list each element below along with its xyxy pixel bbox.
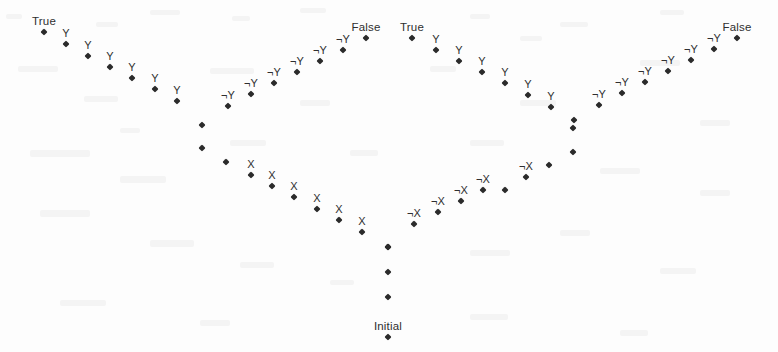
node-label: ¬Y [290,56,304,67]
node-label: Y [455,45,463,56]
graph-node [224,102,231,109]
graph-node [547,103,554,110]
graph-node [478,68,485,75]
graph-node [198,121,205,128]
graph-node [710,45,717,52]
graph-node [522,173,529,180]
graph-node [664,67,671,74]
node-label: Y [84,40,92,51]
node-label: ¬Y [267,67,281,78]
graph-node [62,40,69,47]
node-label: Y [128,62,136,73]
graph-node [434,208,441,215]
graph-node [222,158,229,165]
node-label: X [313,193,321,204]
diagram-canvas: TrueYYYYYYXXXXXXFalse¬Y¬Y¬Y¬Y¬Y¬YTrueYYY… [0,0,778,352]
node-label: X [335,204,343,215]
node-label: X [290,181,298,192]
graph-node [293,68,300,75]
node-label: Y [106,51,114,62]
node-label: ¬X [454,185,468,196]
node-label: X [247,159,255,170]
graph-node [335,216,342,223]
node-label: X [358,216,366,227]
graph-node [687,56,694,63]
graph-node [316,57,323,64]
node-label: False [351,22,380,33]
graph-node [595,101,602,108]
node-label: ¬X [407,208,421,219]
graph-node [198,144,205,151]
node-label: Y [547,91,555,102]
graph-node [128,74,135,81]
node-label: ¬Y [707,33,721,44]
graph-node [339,46,346,53]
graph-node [384,268,391,275]
graph-node [501,186,508,193]
graph-node [524,91,531,98]
graph-node [384,333,391,340]
node-label: ¬Y [244,78,258,89]
graph-node [358,228,365,235]
node-label: True [32,16,56,27]
graph-node [270,79,277,86]
graph-node [501,79,508,86]
node-label: Y [151,73,159,84]
node-label: ¬X [476,174,490,185]
graph-node [432,46,439,53]
graph-node [410,220,417,227]
graph-node [570,116,577,123]
node-label: ¬Y [684,44,698,55]
graph-node [151,85,158,92]
graph-node [173,97,180,104]
graph-node [84,52,91,59]
graph-node [545,161,552,168]
graph-node [408,34,415,41]
graph-node [569,124,576,131]
node-label: False [722,22,751,33]
graph-node [313,205,320,212]
graph-node [362,34,369,41]
node-label: Y [173,85,181,96]
node-label: ¬Y [615,77,629,88]
graph-node [40,28,47,35]
graph-node [733,34,740,41]
node-label: ¬Y [592,89,606,100]
node-label: Y [478,56,486,67]
node-label: ¬Y [221,90,235,101]
node-label: ¬Y [336,34,350,45]
graph-node [455,57,462,64]
graph-node [106,63,113,70]
graph-node [290,193,297,200]
node-label: ¬Y [313,45,327,56]
node-label: Initial [374,321,402,332]
graph-node [268,182,275,189]
node-label: Y [432,34,440,45]
node-label: ¬X [519,161,533,172]
node-label: ¬Y [638,66,652,77]
node-label: ¬X [431,196,445,207]
graph-node [384,293,391,300]
graph-node [618,89,625,96]
node-label: Y [62,28,70,39]
graph-node [569,148,576,155]
graph-node [457,197,464,204]
node-label: Y [524,79,532,90]
graph-node [247,171,254,178]
graph-node [384,243,391,250]
node-label: X [268,170,276,181]
graph-node [641,78,648,85]
node-label: ¬Y [661,55,675,66]
graph-node [479,186,486,193]
node-label: Y [501,67,509,78]
graph-node [247,90,254,97]
node-label: True [400,22,424,33]
